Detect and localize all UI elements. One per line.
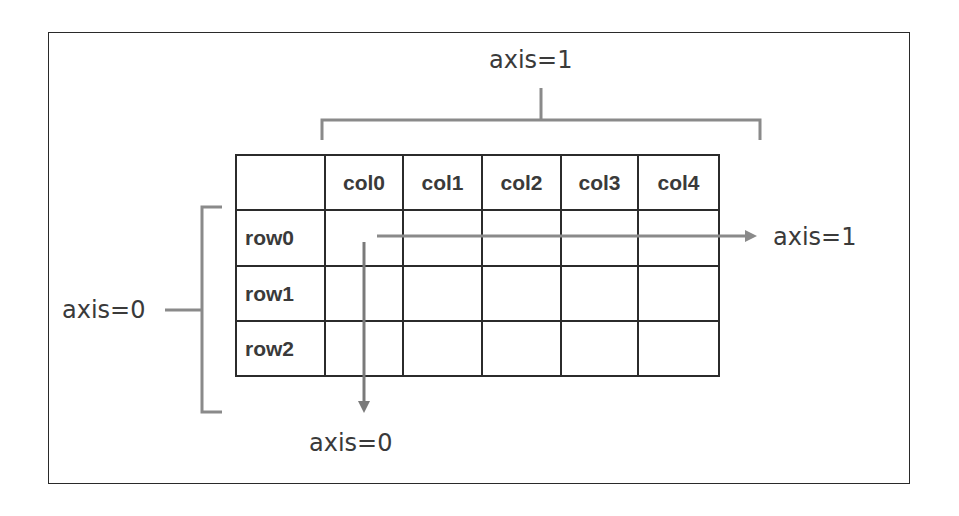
cell [561, 321, 638, 376]
cell [561, 210, 638, 266]
cell [638, 321, 719, 376]
row-header-row0: row0 [236, 210, 325, 266]
cell [325, 210, 403, 266]
bottom-arrow-axis0-label: axis=0 [309, 431, 392, 455]
cell [482, 266, 561, 321]
column-header-col3: col3 [561, 155, 638, 210]
table-row: row2 [236, 321, 719, 376]
cell [403, 210, 482, 266]
cell [482, 321, 561, 376]
dataframe-grid: col0 col1 col2 col3 col4 row0 row1 row2 [235, 154, 720, 377]
row-header-row2: row2 [236, 321, 325, 376]
left-axis0-label: axis=0 [62, 298, 145, 322]
column-header-col1: col1 [403, 155, 482, 210]
column-header-col2: col2 [482, 155, 561, 210]
column-header-col4: col4 [638, 155, 719, 210]
cell [325, 321, 403, 376]
table-row: row0 [236, 210, 719, 266]
table-row: row1 [236, 266, 719, 321]
cell [325, 266, 403, 321]
cell [638, 266, 719, 321]
column-header-col0: col0 [325, 155, 403, 210]
top-axis1-label: axis=1 [489, 48, 572, 72]
cell [403, 321, 482, 376]
cell [482, 210, 561, 266]
cell [403, 266, 482, 321]
header-row: col0 col1 col2 col3 col4 [236, 155, 719, 210]
right-arrow-axis1-label: axis=1 [773, 225, 856, 249]
corner-cell [236, 155, 325, 210]
cell [638, 210, 719, 266]
row-header-row1: row1 [236, 266, 325, 321]
cell [561, 266, 638, 321]
